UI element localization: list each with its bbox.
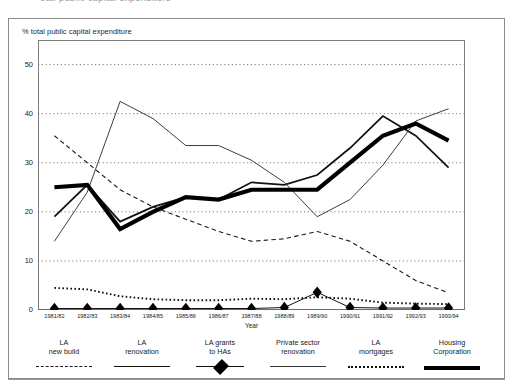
legend-swatch bbox=[114, 362, 170, 372]
figure-bottom-rule bbox=[8, 379, 505, 380]
legend-item: Housing Corporation bbox=[412, 338, 492, 372]
legend-label: Housing Corporation bbox=[412, 338, 492, 356]
x-tick-label: 1981/82 bbox=[37, 313, 71, 319]
x-tick-label: 1982/83 bbox=[70, 313, 104, 319]
legend-swatch bbox=[270, 362, 326, 372]
x-tick-label: 1987/88 bbox=[235, 313, 269, 319]
y-tick-label: 0 bbox=[11, 305, 33, 314]
scan-caption: otal public capital expenditure bbox=[40, 0, 171, 3]
y-tick-label: 30 bbox=[11, 158, 33, 167]
series-marker-2-9 bbox=[345, 302, 354, 310]
x-tick-label: 1993/94 bbox=[432, 313, 466, 319]
x-tick-label: 1983/84 bbox=[103, 313, 137, 319]
x-tick-label: 1988/89 bbox=[267, 313, 301, 319]
y-tick-label: 50 bbox=[11, 60, 33, 69]
legend-label: Private sector renovation bbox=[258, 338, 338, 356]
x-tick-label: 1989/90 bbox=[300, 313, 334, 319]
chart-legend: LA new buildLA renovationLA grants to HA… bbox=[24, 338, 490, 378]
legend-label: LA new build bbox=[24, 338, 104, 356]
x-axis-title: Year bbox=[232, 322, 272, 329]
series-marker-2-3 bbox=[148, 303, 157, 310]
series-marker-2-1 bbox=[83, 303, 92, 310]
diamond-marker-icon bbox=[213, 359, 229, 375]
legend-item: LA renovation bbox=[102, 338, 182, 372]
legend-item: LA grants to HAs bbox=[180, 338, 260, 372]
y-tick-label: 20 bbox=[11, 207, 33, 216]
legend-swatch bbox=[348, 362, 404, 372]
y-axis-caption: % total public capital expenditure bbox=[22, 27, 132, 36]
series-marker-2-6 bbox=[247, 303, 256, 310]
x-tick-label: 1986/87 bbox=[202, 313, 236, 319]
legend-item: LA mortgages bbox=[336, 338, 416, 372]
legend-label: LA renovation bbox=[102, 338, 182, 356]
series-marker-2-8 bbox=[313, 287, 322, 299]
series-marker-2-2 bbox=[116, 303, 125, 310]
legend-swatch-line bbox=[114, 366, 170, 367]
x-tick-label: 1991/92 bbox=[366, 313, 400, 319]
series-marker-2-5 bbox=[214, 303, 223, 310]
series-marker-2-0 bbox=[50, 303, 59, 310]
legend-item: Private sector renovation bbox=[258, 338, 338, 372]
legend-swatch bbox=[192, 362, 248, 372]
series-marker-2-11 bbox=[411, 302, 420, 310]
legend-swatch bbox=[424, 362, 480, 372]
x-tick-label: 1985/86 bbox=[169, 313, 203, 319]
y-tick-label: 40 bbox=[11, 109, 33, 118]
figure-clip: otal public capital expenditure % total … bbox=[0, 0, 513, 389]
legend-swatch-line bbox=[270, 366, 326, 367]
legend-swatch-line bbox=[348, 366, 404, 368]
legend-item: LA new build bbox=[24, 338, 104, 372]
series-marker-2-7 bbox=[280, 302, 289, 310]
x-tick-label: 1984/85 bbox=[136, 313, 170, 319]
x-tick-label: 1990/91 bbox=[333, 313, 367, 319]
series-marker-2-4 bbox=[181, 303, 190, 310]
legend-swatch-line bbox=[424, 366, 480, 370]
y-tick-label: 10 bbox=[11, 256, 33, 265]
legend-swatch bbox=[36, 362, 92, 372]
legend-label: LA grants to HAs bbox=[180, 338, 260, 356]
legend-swatch-line bbox=[36, 366, 92, 367]
legend-label: LA mortgages bbox=[336, 338, 416, 356]
x-tick-label: 1992/93 bbox=[399, 313, 433, 319]
series-line-4 bbox=[54, 288, 448, 304]
line-chart-plot bbox=[38, 40, 465, 310]
